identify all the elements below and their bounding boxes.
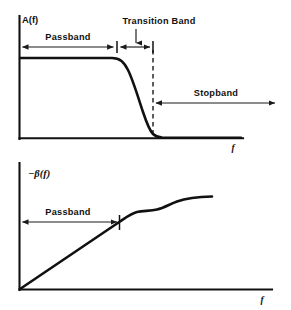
filter-response-figure: A(f) f Passband Transition Band Stopband [0, 0, 291, 310]
amplitude-response-chart: A(f) f Passband Transition Band Stopband [20, 14, 276, 153]
passband-label: Passband [45, 32, 90, 42]
phase-passband-label: Passband [45, 207, 90, 217]
amplitude-y-axis-label: A(f) [22, 14, 38, 25]
stopband-label: Stopband [194, 88, 238, 98]
phase-y-axis-label: −β(f) [28, 168, 50, 180]
transition-band-label: Transition Band [122, 16, 195, 26]
phase-x-axis-label: f [260, 295, 264, 305]
amplitude-x-axis-label: f [231, 143, 235, 153]
phase-response-chart: −β(f) f Passband [20, 163, 273, 305]
filter-response-svg: A(f) f Passband Transition Band Stopband [0, 0, 291, 310]
